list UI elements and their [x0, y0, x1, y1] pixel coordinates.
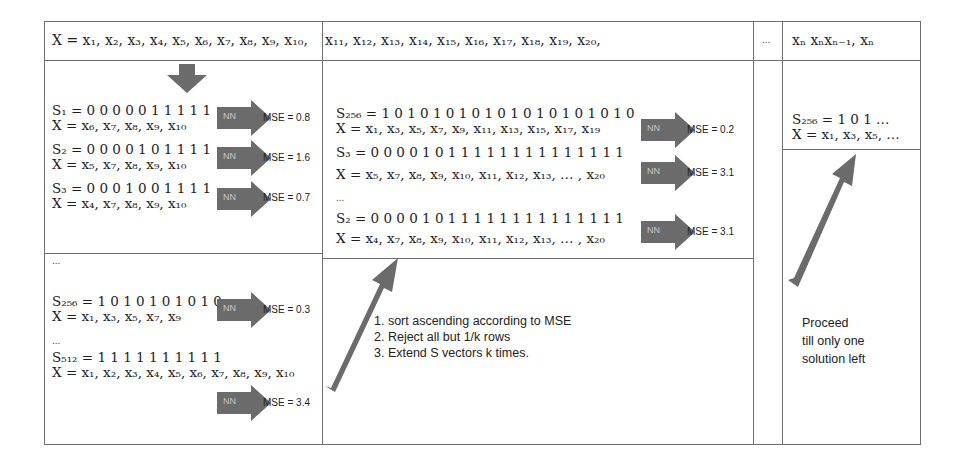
stage2-s256: S₂₅₆ = 1 0 1 0 1 0 1 0 1 0 1 0 1 0 1 0 1… — [336, 106, 635, 121]
stage2-s2: S₂ = 0 0 0 0 1 0 1 1 1 1 1 1 1 1 1 1 1 1… — [336, 211, 624, 226]
nn-label: NN — [647, 166, 660, 176]
step-item: 2. Reject all but 1/k rows — [374, 329, 571, 345]
header-x-sequence-last: xₙ xₙxₙ₋₁, xₙ — [792, 33, 874, 48]
stage1-s256: S₂₅₆ = 1 0 1 0 1 0 1 0 1 0 — [52, 294, 222, 309]
stage1-s512: S₅₁₂ = 1 1 1 1 1 1 1 1 1 1 — [52, 350, 222, 365]
table-border-right — [920, 21, 921, 445]
nn-label: NN — [223, 111, 236, 121]
proceed-line: till only one — [802, 332, 865, 350]
stage1-s3: S₃ = 0 0 0 1 0 0 1 1 1 1 — [52, 181, 211, 196]
down-arrow-icon — [166, 64, 208, 98]
header-divider — [44, 60, 921, 61]
stage1-x1: X = x₆, x₇, x₈, x₉, x₁₀ — [52, 118, 186, 133]
stage2-x2: X = x₄, x₇, x₈, x₉, x₁₀, x₁₁, x₁₂, x₁₃, … — [336, 231, 605, 246]
col-divider-3 — [782, 21, 783, 445]
mse-value: MSE = 3.4 — [263, 397, 310, 408]
stage1-s2: S₂ = 0 0 0 0 1 0 1 1 1 1 — [52, 142, 211, 157]
col-divider-2 — [753, 21, 754, 445]
stage1-x2: X = x₅, x₇, x₈, x₉, x₁₀ — [52, 157, 186, 172]
table-border-left — [44, 21, 45, 445]
nn-label: NN — [647, 123, 660, 133]
nn-label: NN — [223, 396, 236, 406]
final-x: X = x₁, x₃, x₅, … — [792, 127, 900, 142]
nn-label: NN — [223, 151, 236, 161]
row-divider-col1 — [44, 253, 323, 254]
diagonal-up-arrow-icon — [786, 150, 866, 294]
header-x-sequence-2: x₁₁, x₁₂, x₁₃, x₁₄, x₁₅, x₁₆, x₁₇, x₁₈, … — [325, 33, 601, 48]
final-s256: S₂₅₆ = 1 0 1 … — [792, 112, 890, 127]
stage1-ellipsis-a: ... — [52, 255, 60, 266]
stage1-s1: S₁ = 0 0 0 0 0 1 1 1 1 1 — [52, 103, 211, 118]
mse-value: MSE = 0.3 — [263, 304, 310, 315]
mse-value: MSE = 0.7 — [263, 192, 310, 203]
proceed-line: solution left — [802, 350, 865, 368]
mse-value: MSE = 3.1 — [687, 167, 734, 178]
stage2-x3: X = x₅, x₇, x₈, x₉, x₁₀, x₁₁, x₁₂, x₁₃, … — [336, 167, 605, 182]
mse-value: MSE = 0.8 — [263, 112, 310, 123]
steps-list: 1. sort ascending according to MSE 2. Re… — [374, 313, 571, 361]
nn-label: NN — [223, 303, 236, 313]
proceed-note: Proceed till only one solution left — [802, 314, 865, 368]
mse-value: MSE = 1.6 — [263, 152, 310, 163]
nn-label: NN — [223, 192, 236, 202]
stage2-ellipsis: ... — [336, 192, 344, 203]
mse-value: MSE = 0.2 — [687, 124, 734, 135]
stage1-x256: X = x₁, x₃, x₅, x₇, x₉ — [52, 309, 181, 324]
table-border-top — [44, 21, 921, 22]
step-item: 1. sort ascending according to MSE — [374, 313, 571, 329]
header-ellipsis: ... — [762, 34, 770, 45]
table-border-bottom — [44, 444, 921, 445]
step-item: 3. Extend S vectors k times. — [374, 345, 571, 361]
proceed-line: Proceed — [802, 314, 865, 332]
nn-label: NN — [647, 225, 660, 235]
header-x-sequence-1: X = x₁, x₂, x₃, x₄, x₅, x₆, x₇, x₈, x₉, … — [52, 33, 308, 48]
stage1-ellipsis-b: ... — [52, 335, 60, 346]
stage1-x512: X = x₁, x₂, x₃, x₄, x₅, x₆, x₇, x₈, x₉, … — [52, 365, 294, 380]
mse-value: MSE = 3.1 — [687, 226, 734, 237]
stage2-s3: S₃ = 0 0 0 0 1 0 1 1 1 1 1 1 1 1 1 1 1 1… — [336, 145, 624, 160]
stage2-x256: X = x₁, x₃, x₅, x₇, x₉, x₁₁, x₁₃, x₁₅, x… — [336, 121, 600, 136]
stage1-x3: X = x₄, x₇, x₈, x₉, x₁₀ — [52, 196, 186, 211]
